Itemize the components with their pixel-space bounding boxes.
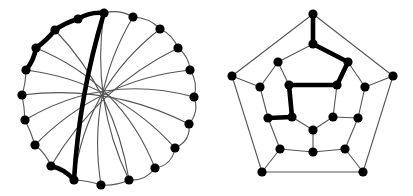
graph-vertex — [340, 144, 349, 153]
graph-vertex — [388, 71, 397, 80]
graph-vertex — [255, 82, 264, 91]
graph-vertex — [332, 80, 341, 89]
graph-vertex — [173, 43, 182, 52]
graph-vertex — [184, 119, 193, 128]
graph-vertex — [21, 65, 30, 74]
graph-vertex — [73, 14, 82, 23]
graph-edge — [280, 149, 313, 152]
graph-vertex — [69, 175, 78, 184]
graph-vertex — [227, 71, 236, 80]
graph-vertex — [308, 9, 317, 18]
graph-edge — [260, 62, 278, 87]
graph-edge — [333, 85, 337, 117]
graph-vertex — [20, 115, 29, 124]
graph-vertex — [124, 175, 133, 184]
graph-vertex — [17, 90, 26, 99]
graph-vertex — [308, 125, 317, 134]
graph-vertex — [308, 39, 317, 48]
graph-edge — [345, 118, 358, 149]
graph-vertex — [343, 57, 352, 66]
graph-vertex — [353, 113, 362, 122]
graph-vertex — [128, 12, 137, 21]
graph-figure-panel — [0, 0, 413, 196]
graph-vertex — [189, 92, 198, 101]
graph-vertex — [287, 112, 296, 121]
graph-edge — [232, 14, 313, 76]
graph-edge — [313, 149, 345, 152]
graph-vertex — [257, 167, 266, 176]
graph-vertex — [31, 43, 40, 52]
graph-edge — [268, 118, 280, 149]
graph-vertex — [150, 163, 159, 172]
graph-edge — [313, 14, 393, 76]
graph-vertex — [358, 167, 367, 176]
graph-vertex — [275, 144, 284, 153]
graph-edge — [35, 70, 190, 145]
graph-drawing-canvas — [0, 0, 413, 196]
graph-vertex — [30, 140, 39, 149]
graph-edge — [358, 87, 365, 118]
graph-vertex — [360, 82, 369, 91]
graph-vertex — [155, 24, 164, 33]
graph-vertex — [170, 143, 179, 152]
graph-edge-highlighted — [289, 85, 292, 117]
graph-vertex — [185, 65, 194, 74]
graph-vertex — [328, 112, 337, 121]
graph-vertex — [46, 161, 55, 170]
graph-vertex — [273, 57, 282, 66]
graph-edge — [260, 87, 268, 118]
graph-vertex — [50, 25, 59, 34]
graph-vertex — [96, 180, 105, 189]
left-graph-vertices — [17, 8, 198, 189]
graph-vertex — [99, 8, 108, 17]
left-graph-highlighted-cycle — [26, 13, 104, 180]
graph-edge — [278, 44, 313, 62]
graph-vertex — [284, 80, 293, 89]
graph-edge-highlighted — [313, 44, 348, 62]
graph-vertex — [263, 113, 272, 122]
graph-vertex — [308, 147, 317, 156]
